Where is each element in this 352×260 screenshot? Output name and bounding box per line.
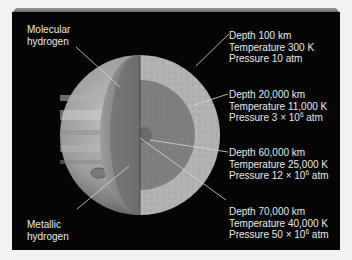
label-metallic-hydrogen: Metallic hydrogen (27, 219, 69, 242)
label-depth-20000km: Depth 20,000 km Temperature 11,000 K Pre… (229, 89, 327, 124)
label-depth-100km: Depth 100 km Temperature 300 K Pressure … (229, 30, 314, 65)
label-molecular-hydrogen: Molecular hydrogen (27, 24, 70, 47)
label-depth-60000km: Depth 60,000 km Temperature 25,000 K Pre… (229, 147, 329, 182)
label-depth-70000km: Depth 70,000 km Temperature 40,000 K Pre… (229, 206, 329, 241)
